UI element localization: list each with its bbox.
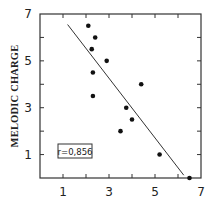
data-point — [139, 82, 144, 87]
data-point — [89, 47, 94, 52]
x-axis-tick-labels: 1357 — [59, 185, 205, 199]
data-point — [118, 129, 123, 134]
data-point — [187, 176, 192, 181]
data-point — [104, 59, 109, 64]
data-point — [86, 23, 91, 28]
data-point — [157, 152, 162, 157]
x-tick-label: 5 — [151, 185, 159, 199]
correlation-annotation: r=0,856 — [58, 144, 93, 158]
data-point — [91, 94, 96, 99]
scatter-chart: 1357 1357 MELODIC CHARGE r=0,856 — [0, 0, 213, 207]
y-axis-ticks — [40, 37, 201, 154]
y-axis-tick-labels: 1357 — [24, 7, 32, 162]
x-tick-label: 1 — [59, 185, 67, 199]
data-points — [86, 23, 192, 180]
data-point — [93, 35, 98, 40]
y-tick-label: 1 — [24, 148, 32, 162]
y-axis-label: MELODIC CHARGE — [9, 45, 20, 148]
correlation-text: r=0,856 — [58, 147, 93, 157]
data-point — [130, 117, 135, 122]
x-tick-label: 7 — [197, 185, 205, 199]
data-point — [91, 70, 96, 75]
x-tick-label: 3 — [105, 185, 113, 199]
y-tick-label: 5 — [24, 54, 32, 68]
y-tick-label: 3 — [24, 101, 32, 115]
y-tick-label: 7 — [24, 7, 32, 21]
data-point — [124, 105, 129, 110]
